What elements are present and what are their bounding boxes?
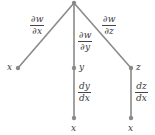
label-y: y [79,63,84,72]
fraction-dy-dx: dy dx [78,82,91,103]
node-y-bottom [72,116,76,120]
fraction-dz-dx: dz dx [135,82,148,103]
fraction-dw-dx: ∂w ∂x [30,15,44,36]
label-z: z [136,63,141,72]
fraction-dw-dz: ∂w ∂z [102,15,116,36]
node-y [72,66,76,70]
label-x-bottom-y: x [71,124,76,133]
node-z [129,66,133,70]
node-root [72,1,76,5]
label-x: x [7,63,12,72]
edge-root-to-x [18,3,74,68]
label-x-bottom-z: x [128,124,133,133]
node-x [16,66,20,70]
fraction-dw-dy: ∂w ∂y [78,31,92,52]
node-z-bottom [129,116,133,120]
tree-lines [0,0,155,135]
